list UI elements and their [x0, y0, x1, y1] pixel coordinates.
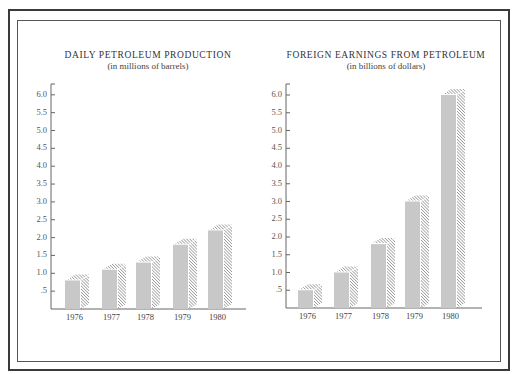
- bar-1977: [334, 267, 358, 309]
- foreign-earnings-chart: FOREIGN EARNINGS FROM PETROLEUM (in bill…: [0, 0, 514, 374]
- bar-1980: [441, 89, 465, 308]
- y-tick-label: 4.5: [258, 142, 282, 152]
- x-tick-label: 1976: [293, 311, 323, 321]
- y-tick-label: 4.0: [258, 160, 282, 170]
- y-tick-label: 3.5: [258, 178, 282, 188]
- y-tick-label: 2.5: [258, 213, 282, 223]
- y-tick-label: 5.5: [258, 107, 282, 117]
- bar-1979: [405, 196, 429, 309]
- y-tick-label: 1.0: [258, 267, 282, 277]
- x-tick-label: 1980: [436, 311, 466, 321]
- y-tick-label: 2.0: [258, 231, 282, 241]
- chart-title: FOREIGN EARNINGS FROM PETROLEUM: [266, 50, 506, 60]
- y-tick-label: .5: [258, 284, 282, 294]
- y-tick-label: 6.0: [258, 89, 282, 99]
- bar-1976: [298, 284, 322, 308]
- chart-subtitle: (in billions of dollars): [266, 61, 506, 71]
- y-tick-label: 3.0: [258, 196, 282, 206]
- y-tick-label: 5.0: [258, 125, 282, 135]
- x-tick-label: 1977: [329, 311, 359, 321]
- x-tick-label: 1978: [366, 311, 396, 321]
- y-tick-label: 1.5: [258, 249, 282, 259]
- bar-1978: [371, 238, 395, 308]
- x-tick-label: 1979: [400, 311, 430, 321]
